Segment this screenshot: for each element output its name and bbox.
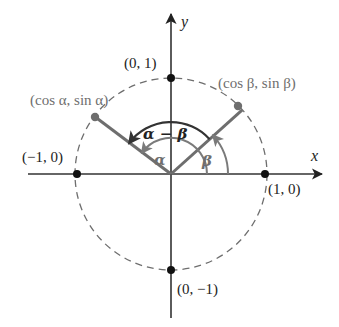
label-alpha-minus-beta: α − β <box>143 125 188 143</box>
point-right <box>261 170 269 178</box>
label-top: (0, 1) <box>124 55 157 72</box>
alpha-arc <box>142 138 207 174</box>
point-top <box>167 74 175 82</box>
beta-arc <box>213 136 228 174</box>
unit-circle-diagram: x y (0, 1) (0, −1) (−1, 0) (1, 0) (cos α… <box>0 0 339 327</box>
label-left: (−1, 0) <box>22 149 63 166</box>
point-beta <box>234 102 242 110</box>
point-bottom <box>167 266 175 274</box>
label-right: (1, 0) <box>268 181 301 198</box>
label-alpha-point: (cos α, sin α) <box>30 92 108 109</box>
label-beta-point: (cos β, sin β) <box>218 75 296 92</box>
x-axis-label: x <box>310 147 318 164</box>
label-beta: β <box>201 152 212 170</box>
y-axis-label: y <box>179 13 189 31</box>
label-alpha: α <box>154 151 166 169</box>
point-left <box>73 170 81 178</box>
label-bottom: (0, −1) <box>177 281 218 298</box>
point-alpha <box>91 113 99 121</box>
